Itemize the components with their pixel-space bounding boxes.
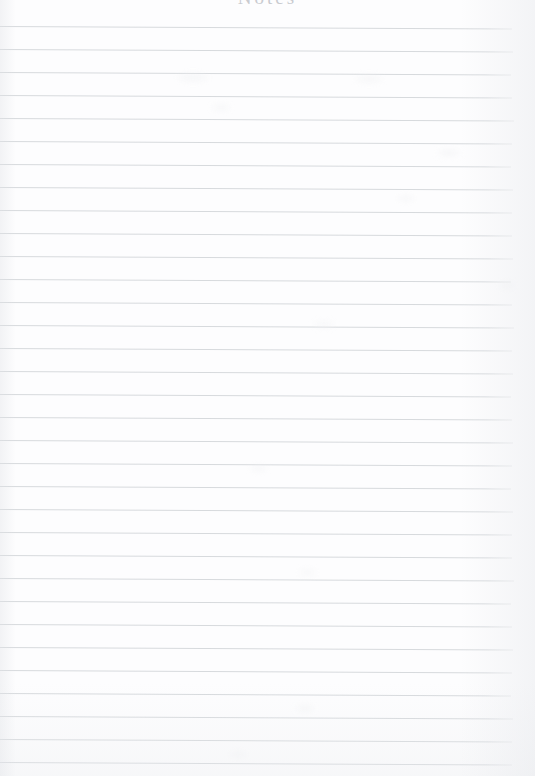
ruled-line: [0, 601, 511, 604]
ruled-line: [0, 647, 513, 651]
ruled-line: [0, 555, 512, 559]
ruled-line: [0, 302, 512, 306]
ruled-line: [0, 371, 513, 375]
ruled-line: [0, 463, 512, 467]
ruled-line: [0, 279, 511, 282]
ruled-line: [0, 509, 513, 513]
ruled-line: [0, 532, 512, 536]
ruled-line: [0, 256, 513, 260]
ruled-lines-group: [0, 0, 535, 776]
page-title: Notes: [0, 0, 535, 9]
notepad-page: Notes: [0, 0, 535, 776]
ruled-line: [0, 486, 511, 489]
ruled-line: [0, 141, 512, 145]
ruled-line: [0, 210, 512, 214]
ruled-line: [0, 578, 514, 582]
ruled-line: [0, 325, 514, 329]
ruled-line: [0, 233, 512, 237]
ruled-line: [0, 72, 511, 75]
ruled-line: [0, 716, 513, 720]
ruled-line: [0, 348, 512, 352]
ruled-line: [0, 693, 511, 696]
ruled-line: [0, 187, 513, 191]
ruled-line: [0, 394, 511, 397]
ruled-line: [0, 49, 513, 53]
ruled-line: [0, 624, 512, 628]
ruled-line: [0, 118, 514, 122]
ruled-line: [0, 26, 512, 30]
ruled-line: [0, 95, 512, 99]
ruled-line: [0, 739, 512, 743]
ruled-line: [0, 164, 511, 167]
ruled-line: [0, 762, 512, 766]
ruled-line: [0, 417, 512, 421]
ruled-line: [0, 440, 513, 444]
ruled-line: [0, 670, 512, 674]
